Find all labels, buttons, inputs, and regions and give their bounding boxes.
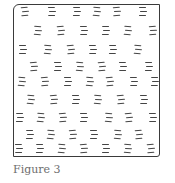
dash-cluster bbox=[58, 144, 66, 154]
dash-mark bbox=[140, 99, 147, 100]
dash-cluster bbox=[134, 45, 142, 55]
dash-cluster bbox=[124, 144, 131, 153]
dash-cluster bbox=[36, 144, 43, 153]
dash-cluster bbox=[130, 77, 137, 86]
dash-mark bbox=[80, 121, 87, 122]
dash-mark bbox=[91, 134, 98, 135]
dash-cluster bbox=[26, 130, 33, 139]
dash-mark bbox=[20, 49, 27, 50]
dash-mark bbox=[65, 81, 72, 82]
dash-mark bbox=[48, 7, 55, 8]
dash-mark bbox=[69, 130, 76, 132]
dash-mark bbox=[37, 117, 44, 119]
dash-mark bbox=[134, 45, 141, 47]
dash-mark bbox=[69, 134, 76, 136]
dash-cluster bbox=[30, 62, 37, 71]
dash-mark bbox=[26, 134, 33, 135]
dash-mark bbox=[73, 7, 80, 8]
dash-mark bbox=[47, 130, 54, 132]
dash-cluster bbox=[145, 62, 152, 71]
dash-mark bbox=[98, 62, 105, 64]
dash-mark bbox=[44, 45, 51, 47]
dash-mark bbox=[80, 144, 87, 146]
dash-cluster bbox=[113, 7, 120, 16]
dash-mark bbox=[44, 49, 51, 51]
dash-cluster bbox=[54, 62, 61, 71]
dash-mark bbox=[86, 77, 93, 79]
dash-mark bbox=[16, 113, 23, 114]
dash-mark bbox=[98, 66, 105, 68]
dash-mark bbox=[15, 144, 22, 145]
dash-mark bbox=[80, 26, 87, 27]
dash-mark bbox=[15, 148, 22, 149]
dash-mark bbox=[93, 11, 100, 13]
dash-mark bbox=[58, 148, 65, 150]
dash-mark bbox=[72, 95, 79, 96]
dash-mark bbox=[113, 11, 120, 13]
dash-mark bbox=[102, 30, 109, 31]
dash-mark bbox=[59, 113, 66, 115]
dash-mark bbox=[140, 11, 147, 12]
dash-mark bbox=[64, 85, 71, 86]
dash-cluster bbox=[50, 95, 57, 104]
dash-mark bbox=[80, 148, 87, 150]
dash-mark bbox=[80, 30, 87, 31]
dash-mark bbox=[55, 66, 62, 67]
dash-mark bbox=[34, 26, 41, 28]
dash-cluster bbox=[48, 7, 55, 16]
dash-mark bbox=[114, 134, 121, 136]
dash-mark bbox=[73, 99, 80, 100]
dash-cluster bbox=[80, 26, 87, 35]
dash-mark bbox=[36, 148, 43, 149]
dash-cluster bbox=[151, 77, 158, 86]
dash-cluster bbox=[64, 77, 71, 86]
dash-mark bbox=[130, 81, 137, 82]
dash-mark bbox=[76, 62, 83, 64]
dash-mark bbox=[94, 95, 101, 97]
dash-cluster bbox=[106, 77, 114, 87]
dash-mark bbox=[41, 81, 48, 83]
dash-cluster bbox=[117, 95, 125, 105]
dash-cluster bbox=[72, 95, 79, 104]
dash-mark bbox=[67, 45, 74, 47]
dash-mark bbox=[145, 66, 152, 67]
dash-cluster bbox=[102, 26, 109, 35]
dash-cluster bbox=[140, 95, 147, 104]
dash-mark bbox=[109, 49, 116, 50]
dash-mark bbox=[93, 7, 100, 9]
dash-cluster bbox=[94, 95, 101, 104]
dash-mark bbox=[67, 49, 74, 51]
dash-mark bbox=[54, 62, 61, 63]
dash-mark bbox=[151, 77, 158, 78]
dash-mark bbox=[54, 70, 61, 71]
dash-mark bbox=[89, 49, 96, 50]
dash-cluster bbox=[124, 26, 132, 36]
dash-cluster bbox=[15, 144, 22, 153]
dash-mark bbox=[41, 77, 48, 79]
dash-mark bbox=[80, 113, 87, 114]
dash-mark bbox=[149, 30, 156, 32]
dash-mark bbox=[113, 7, 120, 9]
dash-mark bbox=[106, 77, 113, 79]
dash-cluster bbox=[67, 45, 75, 55]
dash-mark bbox=[102, 26, 109, 27]
dash-cluster bbox=[27, 95, 35, 105]
dash-mark bbox=[149, 26, 156, 28]
dash-mark bbox=[73, 11, 80, 12]
dash-cluster bbox=[47, 130, 55, 140]
dash-mark bbox=[59, 117, 66, 119]
dash-mark bbox=[145, 62, 152, 63]
dash-mark bbox=[125, 117, 132, 119]
dash-cluster bbox=[37, 113, 45, 123]
dash-cluster bbox=[98, 62, 106, 72]
dash-mark bbox=[117, 99, 124, 101]
dash-mark bbox=[119, 66, 126, 67]
dash-mark bbox=[139, 15, 146, 16]
dash-mark bbox=[86, 81, 93, 83]
dash-mark bbox=[124, 30, 131, 32]
dash-cluster bbox=[89, 45, 96, 54]
dash-mark bbox=[21, 11, 28, 13]
dash-cluster bbox=[18, 77, 26, 87]
figure-caption: Figure 3 bbox=[13, 163, 61, 176]
dash-mark bbox=[37, 113, 44, 115]
